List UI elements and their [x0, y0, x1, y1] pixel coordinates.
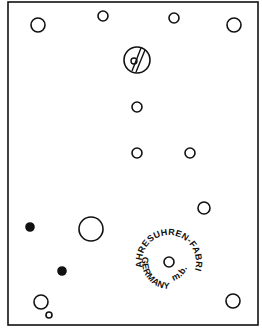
hole-bottom-left-pillar [34, 295, 48, 309]
holes-group [26, 11, 241, 318]
hole-dot-upper [26, 223, 34, 231]
stamp-country-text: GERMANY [140, 257, 171, 292]
hole-top-right-pillar [227, 18, 241, 32]
hole-upper-center-1 [132, 102, 142, 112]
hole-bottom-left-small [46, 312, 52, 318]
hole-middle-center [132, 148, 142, 158]
hole-stamp-center [164, 257, 174, 267]
hole-large-arbor [79, 217, 103, 241]
backplate-diagram: JAHRESUHREN-FABRIK GERMANY G.m.b.H. [0, 0, 262, 331]
hole-right-lower [198, 202, 210, 214]
backplate-outline [8, 2, 258, 325]
hole-dot-lower [58, 267, 66, 275]
hole-bottom-right-pillar [226, 294, 240, 308]
hole-middle-right [185, 148, 195, 158]
slotted-hole [124, 47, 150, 73]
hole-top-small-right [169, 13, 179, 23]
hole-top-small-left [98, 11, 108, 21]
hole-top-left-pillar [31, 18, 45, 32]
maker-stamp: JAHRESUHREN-FABRIK GERMANY G.m.b.H. [0, 0, 204, 291]
